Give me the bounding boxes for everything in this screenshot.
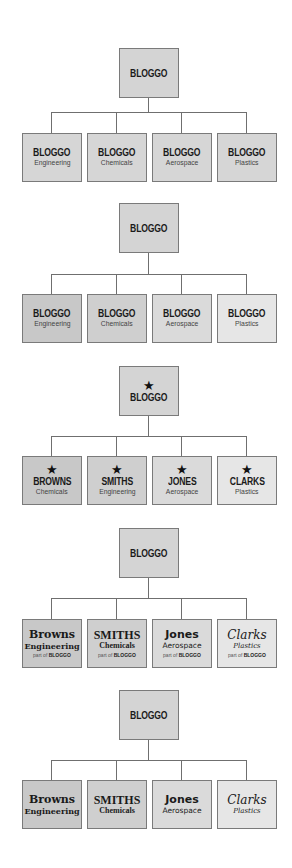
child-name: BLOGGO xyxy=(163,308,200,319)
child-box: Browns Engineering part of BLOGGO xyxy=(22,619,82,668)
connector-bar xyxy=(51,274,247,275)
child-name: SMITHS xyxy=(94,629,141,641)
org-chart-5-independent-brands: BLOGGO Browns Engineering SMITHS Chemica… xyxy=(0,690,292,830)
connector-drop xyxy=(246,112,247,133)
child-box: SMITHS Chemicals xyxy=(87,780,147,829)
child-name: BLOGGO xyxy=(228,147,265,158)
connector-bar xyxy=(51,598,247,599)
child-division: Chemicals xyxy=(101,158,133,168)
org-chart-2-graded: BLOGGO BLOGGO Engineering BLOGGO Chemica… xyxy=(0,203,292,338)
connector-drop xyxy=(116,112,117,133)
connector-trunk xyxy=(148,253,149,274)
child-box: Browns Engineering xyxy=(22,780,82,829)
child-division: Aerospace xyxy=(166,319,199,329)
child-box: BLOGGO Aerospace xyxy=(152,294,212,343)
child-division: Aerospace xyxy=(162,806,201,816)
connector-drop xyxy=(116,274,117,294)
child-name: Jones xyxy=(165,794,199,806)
child-box: BLOGGO Chemicals xyxy=(87,294,147,343)
child-box: BLOGGO Aerospace xyxy=(152,133,212,182)
child-name: SMITHS xyxy=(94,794,141,806)
connector-drop xyxy=(246,598,247,619)
connector-bar xyxy=(51,760,247,761)
connector-drop xyxy=(51,112,52,133)
child-division: Aerospace xyxy=(166,487,199,497)
org-chart-4-endorsed-brands: BLOGGO Browns Engineering part of BLOGGO… xyxy=(0,528,292,668)
child-box: ★ SMITHS Engineering xyxy=(87,456,147,505)
endorsement-line: part of BLOGGO xyxy=(228,652,266,659)
connector-drop xyxy=(181,598,182,619)
connector-trunk xyxy=(148,98,149,112)
connector-drop xyxy=(181,112,182,133)
connector-drop xyxy=(116,436,117,456)
parent-label: BLOGGO xyxy=(130,68,167,79)
child-name: SMITHS xyxy=(101,476,133,487)
connector-trunk xyxy=(148,416,149,436)
child-box: BLOGGO Plastics xyxy=(217,294,277,343)
org-chart-1-monolithic: BLOGGO BLOGGO Engineering BLOGGO Chemica… xyxy=(0,48,292,183)
connector-trunk xyxy=(148,578,149,598)
child-box: Jones Aerospace part of BLOGGO xyxy=(152,619,212,668)
connector-drop xyxy=(181,274,182,294)
child-box: ★ CLARKS Plastics xyxy=(217,456,277,505)
child-name: Browns xyxy=(29,629,75,641)
child-name: BLOGGO xyxy=(33,147,70,158)
child-name: BLOGGO xyxy=(163,147,200,158)
child-box: BLOGGO Engineering xyxy=(22,133,82,182)
parent-label: BLOGGO xyxy=(130,223,167,234)
connector-drop xyxy=(181,436,182,456)
endorsement-line: part of BLOGGO xyxy=(163,652,201,659)
child-division: Engineering xyxy=(99,487,135,497)
child-name: Clarks xyxy=(227,794,266,806)
child-box: ★ JONES Aerospace xyxy=(152,456,212,505)
child-name: JONES xyxy=(168,476,196,487)
parent-box: BLOGGO xyxy=(119,528,179,578)
connector-drop xyxy=(246,760,247,780)
child-box: BLOGGO Chemicals xyxy=(87,133,147,182)
child-name: BLOGGO xyxy=(98,147,135,158)
child-division: Plastics xyxy=(235,487,258,497)
child-division: Engineering xyxy=(24,641,79,651)
child-division: Chemicals xyxy=(99,806,135,816)
child-box: Jones Aerospace xyxy=(152,780,212,829)
child-division: Chemicals xyxy=(99,641,135,651)
child-division: Engineering xyxy=(24,806,79,816)
connector-drop xyxy=(181,760,182,780)
child-name: BLOGGO xyxy=(98,308,135,319)
connector-bar xyxy=(51,112,247,113)
child-name: Jones xyxy=(165,629,199,641)
child-name: Clarks xyxy=(227,629,266,641)
child-division: Aerospace xyxy=(166,158,199,168)
parent-label: BLOGGO xyxy=(130,548,167,559)
endorsement-line: part of BLOGGO xyxy=(33,652,71,659)
connector-drop xyxy=(51,436,52,456)
parent-box: ★ BLOGGO xyxy=(119,366,179,416)
org-chart-3-endorsed-star: ★ BLOGGO ★ BROWNS Chemicals ★ SMITHS Eng… xyxy=(0,366,292,501)
connector-drop xyxy=(51,760,52,780)
connector-bar xyxy=(51,436,247,437)
connector-drop xyxy=(116,760,117,780)
parent-box: BLOGGO xyxy=(119,48,179,98)
connector-trunk xyxy=(148,740,149,760)
connector-drop xyxy=(51,274,52,294)
child-name: BLOGGO xyxy=(228,308,265,319)
connector-drop xyxy=(116,598,117,619)
connector-drop xyxy=(246,274,247,294)
child-division: Aerospace xyxy=(162,641,201,651)
child-division: Plastics xyxy=(233,806,260,816)
child-box: ★ BROWNS Chemicals xyxy=(22,456,82,505)
child-division: Plastics xyxy=(235,319,258,329)
child-division: Engineering xyxy=(34,319,70,329)
parent-label: BLOGGO xyxy=(130,710,167,721)
child-division: Chemicals xyxy=(36,487,68,497)
endorsement-line: part of BLOGGO xyxy=(98,652,136,659)
connector-drop xyxy=(51,598,52,619)
child-division: Chemicals xyxy=(101,319,133,329)
child-box: BLOGGO Plastics xyxy=(217,133,277,182)
parent-label: BLOGGO xyxy=(130,392,167,403)
child-name: BROWNS xyxy=(33,476,71,487)
child-name: CLARKS xyxy=(230,476,265,487)
parent-box: BLOGGO xyxy=(119,690,179,740)
child-name: BLOGGO xyxy=(33,308,70,319)
connector-drop xyxy=(246,436,247,456)
